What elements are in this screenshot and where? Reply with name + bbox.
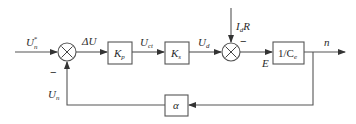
error-label: ΔU — [81, 35, 97, 47]
voltage-label: Ud — [198, 36, 210, 50]
summing-junction-1 — [58, 43, 76, 61]
feedback-label: Un — [48, 88, 60, 102]
feedback-gain-label: α — [173, 99, 179, 111]
output-label: n — [324, 36, 330, 48]
control-label: Uct — [140, 36, 154, 50]
disturbance-minus-sign: − — [240, 35, 246, 47]
summing-junction-2 — [222, 43, 240, 61]
feedback-minus-sign: − — [50, 66, 56, 78]
feedback-wire-left — [67, 62, 165, 105]
reference-label: Un* — [26, 35, 38, 51]
disturbance-label: IdR — [235, 20, 250, 34]
emf-label: E — [261, 57, 269, 69]
block-diagram: Un* − ΔU Kp Uct Ks Ud IdR − E 1/Ce n α U… — [0, 0, 356, 124]
